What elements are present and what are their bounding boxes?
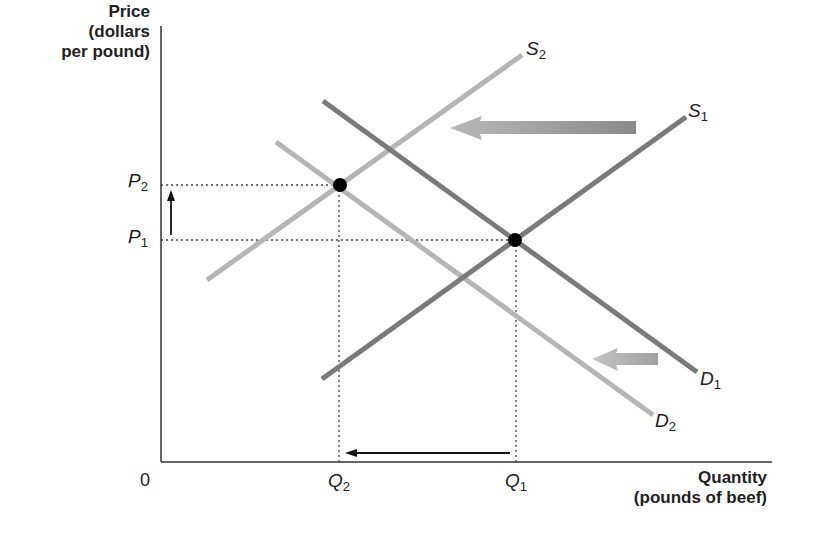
tick-label-subscript: 1 (520, 479, 527, 494)
curve-label-subscript: 2 (669, 419, 676, 434)
y-axis-title-line: Price (61, 2, 150, 22)
curve-label-base: D (655, 410, 669, 431)
chart-canvas (0, 0, 815, 533)
curve-label-subscript: 1 (701, 109, 708, 124)
curve-label-base: S (526, 38, 539, 59)
tick-label-base: Q (505, 470, 520, 491)
tick-label-subscript: 2 (343, 479, 350, 494)
x-axis-title: Quantity (pounds of beef) (634, 468, 767, 508)
demand-shift-arrow-icon (592, 348, 658, 371)
y-axis-title-line: (dollars (61, 22, 150, 42)
curve-label-d2: D2 (655, 410, 676, 434)
curve-label-subscript: 1 (714, 377, 721, 392)
equilibrium-point-e2 (333, 178, 347, 192)
tick-label-q1: Q1 (505, 470, 527, 494)
equilibrium-point-e1 (508, 233, 522, 247)
tick-label-subscript: 1 (141, 235, 148, 250)
x-axis-title-line: Quantity (634, 468, 767, 488)
y-axis-title-line: per pound) (61, 42, 150, 62)
quantity-decrease-arrowhead-icon (345, 449, 357, 457)
tick-label-p1: P1 (128, 226, 148, 250)
curve-label-base: D (700, 368, 714, 389)
curve-label-d1: D1 (700, 368, 721, 392)
curve-label-s1: S1 (688, 100, 708, 124)
origin-label: 0 (140, 470, 150, 491)
x-axis-title-line: (pounds of beef) (634, 488, 767, 508)
curve-label-base: S (688, 100, 701, 121)
tick-label-p2: P2 (128, 170, 148, 194)
price-increase-arrowhead-icon (167, 190, 175, 201)
supply-shift-arrow-icon (450, 116, 636, 140)
tick-label-q2: Q2 (328, 470, 350, 494)
tick-label-base: Q (328, 470, 343, 491)
tick-label-base: P (128, 226, 141, 247)
curve-label-s2: S2 (526, 38, 546, 62)
curve-label-subscript: 2 (539, 47, 546, 62)
y-axis-title: Price (dollars per pound) (61, 2, 150, 62)
tick-label-subscript: 2 (141, 179, 148, 194)
tick-label-base: P (128, 170, 141, 191)
supply-curve-s2 (207, 55, 522, 280)
